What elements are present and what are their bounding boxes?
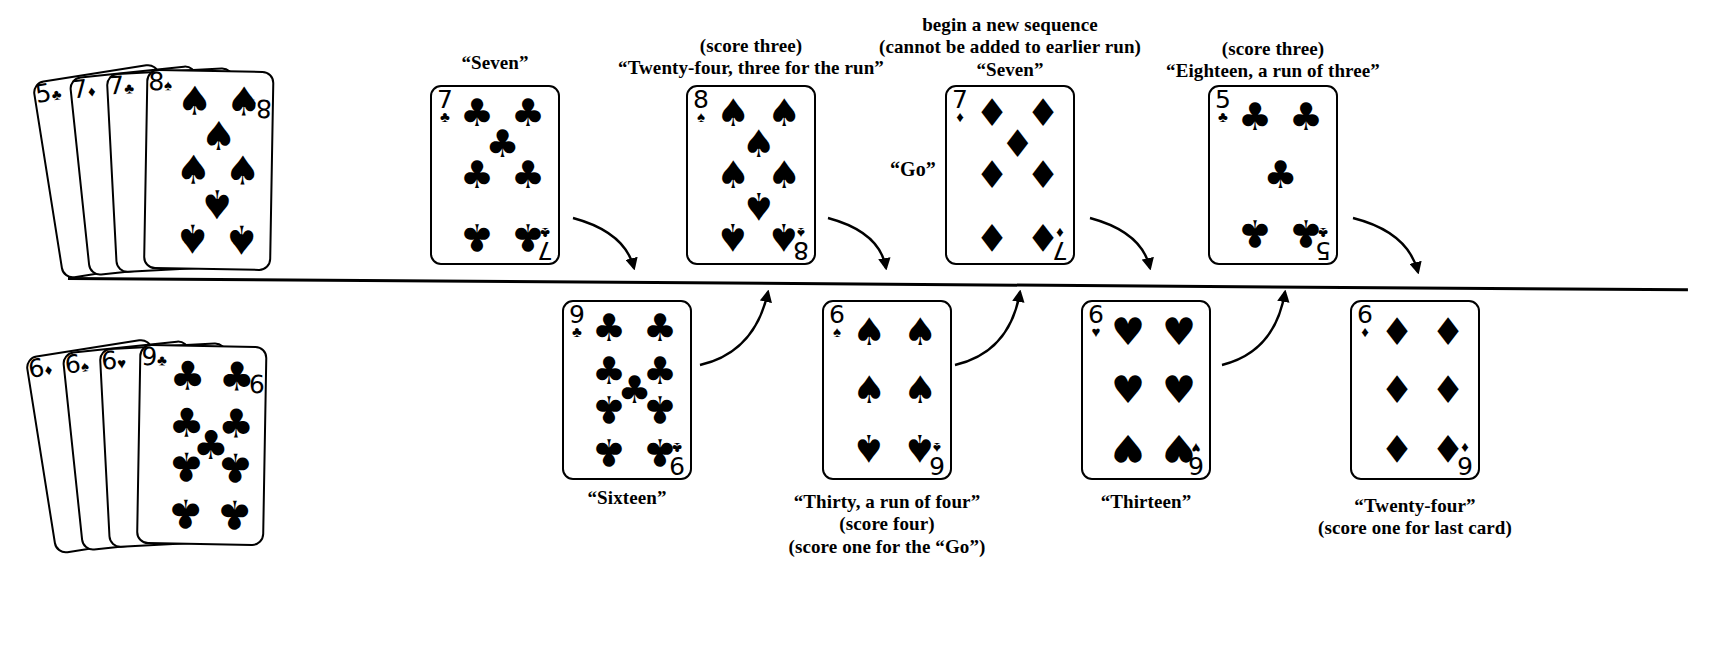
label-line: “Thirteen” bbox=[1016, 491, 1276, 513]
card-pip-field: ♣♣♣♣♣♣♣ bbox=[457, 94, 548, 256]
card-pip-club: ♣ bbox=[168, 446, 205, 487]
card-rank: 9 bbox=[141, 342, 157, 371]
card-pip-field: ♠♠♠♠♠♠♠♠ bbox=[713, 94, 804, 256]
playing-card-6-heart[interactable]: 6♥6♥♥♥♥♥♥♥ bbox=[1081, 300, 1211, 480]
card-suit-icon: ♣ bbox=[440, 111, 450, 125]
card-rank: 5 bbox=[33, 78, 53, 109]
card-pip-club: ♣ bbox=[460, 218, 494, 256]
card-pip-club: ♣ bbox=[592, 390, 626, 428]
card-rank: 6 bbox=[101, 346, 118, 376]
card-pip-diamond: ♦ bbox=[975, 156, 1009, 194]
card-pip-club: ♣ bbox=[1289, 214, 1323, 252]
card-pip-diamond: ♦ bbox=[1431, 371, 1465, 409]
card-suit-icon: ♦ bbox=[87, 83, 96, 100]
card-pip-club: ♣ bbox=[167, 493, 204, 534]
card-suit-icon: ♣ bbox=[239, 372, 249, 388]
card-suit-icon: ♣ bbox=[1218, 111, 1228, 125]
card-suit-icon: ♦ bbox=[956, 111, 964, 125]
card-pip-heart: ♥ bbox=[1111, 429, 1145, 467]
card-corner-index: 8♠ bbox=[693, 89, 709, 124]
card-suit-icon: ♠ bbox=[248, 97, 256, 113]
label-line: (score four) bbox=[717, 513, 1057, 535]
card-pip-field: ♦♦♦♦♦♦♦ bbox=[972, 94, 1063, 256]
card-pip-field: ♦♦♦♦♦♦ bbox=[1377, 309, 1468, 471]
card-pip-diamond: ♦ bbox=[1380, 313, 1414, 351]
card-corner-index: 9♣ bbox=[569, 304, 585, 339]
card-corner-index: 8♠ bbox=[148, 94, 272, 119]
playing-card-7-club[interactable]: 7♣7♣♣♣♣♣♣♣♣ bbox=[430, 85, 560, 265]
dealer-hand-card-8-spade[interactable]: 8♠♠♠♠♠♠♠♠♠8♠ bbox=[143, 69, 274, 271]
card-pip-club: ♣ bbox=[643, 309, 677, 347]
card-rank: 8 bbox=[256, 94, 272, 123]
card-pip-club: ♣ bbox=[216, 494, 253, 535]
card-pip-club: ♣ bbox=[1264, 156, 1298, 194]
card-pip-heart: ♥ bbox=[1111, 313, 1145, 351]
card-rank: 7 bbox=[70, 74, 89, 105]
top-play-label-4: (score three)“Eighteen, a run of three” bbox=[1108, 38, 1438, 83]
playing-card-6-diamond[interactable]: 6♦6♦♦♦♦♦♦♦ bbox=[1350, 300, 1480, 480]
card-pip-diamond: ♦ bbox=[1431, 313, 1465, 351]
card-pip-field: ♥♥♥♥♥♥ bbox=[1108, 309, 1199, 471]
card-corner-index: 7♣ bbox=[437, 89, 453, 124]
label-line: “Eighteen, a run of three” bbox=[1108, 60, 1438, 82]
pone-hand-card-9-club[interactable]: 9♣♣♣♣♣♣♣♣♣♣9♣ bbox=[136, 344, 267, 546]
card-rank: 6 bbox=[26, 353, 46, 384]
card-rank: 6 bbox=[63, 349, 82, 380]
bottom-play-label-3: “Thirteen” bbox=[1016, 491, 1276, 513]
label-line: “Twenty-four” bbox=[1240, 495, 1590, 517]
card-pip-club: ♣ bbox=[592, 309, 626, 347]
card-pip-diamond: ♦ bbox=[1431, 429, 1465, 467]
label-line: begin a new sequence bbox=[830, 14, 1190, 36]
card-pip-spade: ♠ bbox=[852, 371, 886, 409]
card-corner-index: 6♠ bbox=[829, 304, 845, 339]
card-pip-heart: ♥ bbox=[1162, 313, 1196, 351]
card-pip-club: ♣ bbox=[1238, 98, 1272, 136]
label-line: (score one for last card) bbox=[1240, 517, 1590, 539]
card-pip-spade: ♠ bbox=[852, 429, 886, 467]
card-pip-diamond: ♦ bbox=[975, 218, 1009, 256]
card-suit-icon: ♣ bbox=[157, 352, 167, 368]
card-corner-index: 6♦ bbox=[1357, 304, 1373, 339]
playing-card-6-spade[interactable]: 6♠6♠♠♠♠♠♠♠ bbox=[822, 300, 952, 480]
card-pip-diamond: ♦ bbox=[1380, 429, 1414, 467]
label-line: (score three) bbox=[1108, 38, 1438, 60]
card-pip-club: ♣ bbox=[592, 433, 626, 471]
card-suit-icon: ♠ bbox=[164, 77, 172, 93]
card-pip-spade: ♠ bbox=[903, 429, 937, 467]
card-pip-field: ♣♣♣♣♣♣♣♣♣ bbox=[589, 309, 680, 471]
card-rank: 7 bbox=[108, 71, 125, 101]
card-rank: 9 bbox=[249, 369, 265, 398]
card-pip-field: ♠♠♠♠♠♠ bbox=[849, 309, 940, 471]
card-pip-spade: ♠ bbox=[716, 218, 750, 256]
card-pip-club: ♣ bbox=[643, 433, 677, 471]
card-suit-icon: ♥ bbox=[1092, 326, 1101, 340]
card-pip-club: ♣ bbox=[460, 156, 494, 194]
label-line: (score one for the “Go”) bbox=[717, 536, 1057, 558]
card-pip-club: ♣ bbox=[1289, 98, 1323, 136]
card-pip-diamond: ♦ bbox=[1026, 156, 1060, 194]
card-pip-spade: ♠ bbox=[852, 313, 886, 351]
card-pip-spade: ♠ bbox=[903, 371, 937, 409]
card-pip-field: ♣♣♣♣♣ bbox=[1235, 94, 1326, 256]
card-pip-spade: ♠ bbox=[223, 219, 260, 260]
card-pip-diamond: ♦ bbox=[1026, 218, 1060, 256]
cribbage-play-diagram: 5♣♣♣♣7♦♦♦♦7♣♣♣♣8♠♠♠♠♠♠♠♠♠8♠ 6♦♦♦♦6♠♠♠♠6♥… bbox=[0, 0, 1719, 648]
playing-card-5-club[interactable]: 5♣5♣♣♣♣♣♣ bbox=[1208, 85, 1338, 265]
card-suit-icon: ♦ bbox=[1361, 326, 1369, 340]
card-pip-club: ♣ bbox=[217, 447, 254, 488]
card-pip-spade: ♠ bbox=[903, 313, 937, 351]
playing-card-8-spade[interactable]: 8♠8♠♠♠♠♠♠♠♠♠ bbox=[686, 85, 816, 265]
card-pip-spade: ♠ bbox=[174, 218, 211, 259]
card-pip-diamond: ♦ bbox=[1380, 371, 1414, 409]
card-pip-heart: ♥ bbox=[1162, 429, 1196, 467]
card-suit-icon: ♠ bbox=[833, 326, 841, 340]
card-rank: 8 bbox=[148, 67, 164, 96]
card-pip-club: ♣ bbox=[643, 390, 677, 428]
card-corner-index: 5♣ bbox=[1215, 89, 1231, 124]
table-divider-line bbox=[68, 277, 1688, 291]
card-corner-index: 7♦ bbox=[952, 89, 968, 124]
card-pip-club: ♣ bbox=[511, 218, 545, 256]
card-corner-index: 9♣ bbox=[141, 369, 265, 394]
playing-card-9-club[interactable]: 9♣9♣♣♣♣♣♣♣♣♣♣ bbox=[562, 300, 692, 480]
card-pip-club: ♣ bbox=[1238, 214, 1272, 252]
